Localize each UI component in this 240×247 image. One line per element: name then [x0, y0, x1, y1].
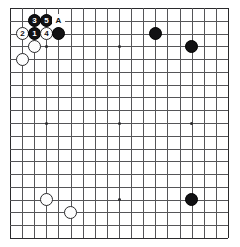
grid-line-horizontal	[10, 225, 228, 226]
grid-line-horizontal	[10, 238, 228, 239]
stone-move-number: 1	[32, 30, 36, 38]
stone-white[interactable]	[64, 206, 77, 219]
grid-line-horizontal	[10, 161, 228, 162]
grid-line-horizontal	[10, 187, 228, 188]
stone-black[interactable]	[149, 27, 162, 40]
grid-line-horizontal	[10, 136, 228, 137]
stone-move-number: 2	[20, 30, 24, 38]
goban-grid[interactable]: 35214A	[10, 8, 228, 238]
stone-white[interactable]	[28, 40, 41, 53]
star-point	[118, 45, 121, 48]
stone-black-3[interactable]: 3	[28, 14, 41, 27]
go-board-diagram: 35214A	[0, 0, 240, 247]
stone-move-number: 3	[32, 17, 36, 25]
stone-white[interactable]	[16, 53, 29, 66]
stone-move-number: 5	[44, 17, 48, 25]
star-point	[45, 45, 48, 48]
grid-line-vertical	[216, 8, 217, 238]
stone-move-number: 4	[44, 30, 48, 38]
star-point	[118, 198, 121, 201]
stone-white[interactable]	[40, 193, 53, 206]
stone-black[interactable]	[185, 193, 198, 206]
stone-black[interactable]	[52, 27, 65, 40]
stone-black-1[interactable]: 1	[28, 27, 41, 40]
grid-line-horizontal	[10, 212, 228, 213]
grid-line-vertical	[131, 8, 132, 238]
point-marker-a[interactable]: A	[52, 14, 65, 27]
grid-line-vertical	[167, 8, 168, 238]
stone-black[interactable]	[185, 40, 198, 53]
grid-line-vertical	[228, 8, 229, 238]
grid-line-vertical	[155, 8, 156, 238]
stone-white-4[interactable]: 4	[40, 27, 53, 40]
grid-line-horizontal	[10, 174, 228, 175]
star-point	[190, 122, 193, 125]
star-point	[118, 122, 121, 125]
grid-line-horizontal	[10, 149, 228, 150]
star-point	[45, 122, 48, 125]
stone-black-5[interactable]: 5	[40, 14, 53, 27]
grid-line-vertical	[180, 8, 181, 238]
stone-white-2[interactable]: 2	[16, 27, 29, 40]
grid-line-vertical	[143, 8, 144, 238]
grid-line-vertical	[204, 8, 205, 238]
